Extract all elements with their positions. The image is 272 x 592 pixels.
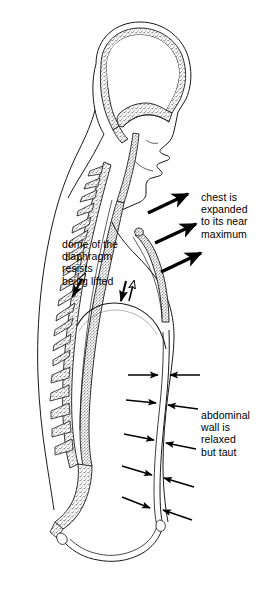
- anatomical-diagram: [0, 0, 272, 592]
- annotation-abdominal-wall: abdominal wall is relaxed but taut: [201, 409, 269, 458]
- brain-cavity: [107, 35, 179, 114]
- pubic-symphysis: [156, 520, 165, 531]
- manubrium: [135, 228, 144, 236]
- annotation-chest-expanded: chest is expanded to its near maximum: [201, 191, 269, 240]
- annotation-diaphragm-dome: dome of the diaphragm resists being lift…: [62, 238, 136, 287]
